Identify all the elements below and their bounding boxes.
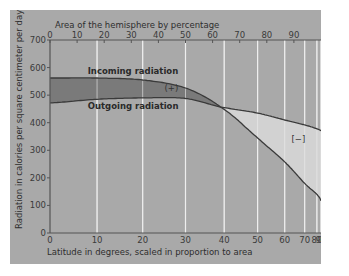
- x-tick-label: 30: [180, 235, 191, 245]
- y-tick-label: 100: [30, 200, 46, 210]
- top-tick-label: 10: [72, 30, 83, 40]
- top-tick-label: 80: [261, 30, 272, 40]
- y-axis-title: Radiation in calories per square centime…: [14, 10, 24, 229]
- y-tick-label: 200: [30, 173, 46, 183]
- top-tick-label: 50: [180, 30, 191, 40]
- top-tick-label: 20: [99, 30, 110, 40]
- radiation-chart: 0100200300400500600700010203040506070809…: [10, 10, 321, 264]
- x-tick-label: 40: [219, 235, 230, 245]
- surplus-label: (+): [165, 83, 179, 93]
- deficit-area: [221, 107, 322, 201]
- y-tick-label: 0: [41, 228, 46, 238]
- y-tick-label: 400: [30, 118, 46, 128]
- y-tick-label: 600: [30, 63, 46, 73]
- y-tick-label: 700: [30, 35, 46, 45]
- top-axis-title: Area of the hemisphere by percentage: [55, 20, 219, 30]
- x-tick-label: 90: [316, 235, 321, 245]
- x-axis-title: Latitude in degrees, scaled in proportio…: [47, 247, 252, 257]
- top-tick-label: 0: [47, 30, 52, 40]
- x-tick-label: 0: [47, 235, 52, 245]
- top-tick-label: 30: [126, 30, 137, 40]
- chart-card: 0100200300400500600700010203040506070809…: [10, 10, 321, 264]
- top-tick-label: 70: [234, 30, 245, 40]
- x-tick-label: 10: [92, 235, 103, 245]
- top-tick-label: 90: [288, 30, 299, 40]
- top-tick-label: 40: [153, 30, 164, 40]
- x-tick-label: 50: [252, 235, 263, 245]
- incoming-radiation-label: Incoming radiation: [88, 66, 179, 76]
- x-tick-label: 60: [279, 235, 290, 245]
- y-tick-label: 300: [30, 145, 46, 155]
- outgoing-radiation-label: Outgoing radiation: [88, 101, 179, 111]
- x-tick-label: 20: [137, 235, 148, 245]
- top-tick-label: 60: [207, 30, 218, 40]
- x-tick-label: 70: [299, 235, 310, 245]
- y-tick-label: 500: [30, 90, 46, 100]
- deficit-label: [−]: [291, 134, 305, 144]
